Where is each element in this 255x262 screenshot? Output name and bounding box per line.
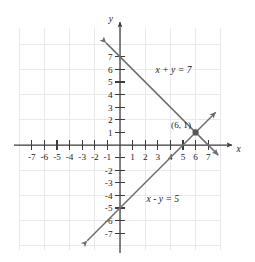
intersection-point-label: (6, 1) (171, 120, 191, 130)
intersection-dot (193, 129, 199, 135)
y-tick-label: 5 (108, 77, 113, 87)
equation-label-x-minus-y: x - y = 5 (146, 193, 180, 204)
graph-canvas: -7 -6 -5 -4 -3 -2 -1 1 2 3 4 5 6 7 7 6 5… (0, 0, 255, 262)
x-tick-label: 3 (156, 152, 161, 162)
annotation-labels: x + y = 7 x - y = 5 (6, 1) (146, 64, 193, 204)
x-tick-label: -1 (104, 152, 112, 162)
y-tick-label: 7 (108, 52, 113, 62)
y-axis-label: y (108, 14, 114, 24)
y-tick-label: -7 (105, 229, 113, 239)
y-tick-label: 4 (108, 90, 113, 100)
y-tick-label: -3 (105, 178, 113, 188)
y-tick-label: 1 (108, 128, 113, 138)
x-tick-label: -5 (53, 152, 61, 162)
line-x-plus-y-equals-7 (106, 43, 218, 155)
x-tick-label: 7 (206, 152, 211, 162)
x-tick-label: 5 (181, 152, 186, 162)
equation-label-x-plus-y: x + y = 7 (155, 64, 193, 75)
coordinate-graph-figure: -7 -6 -5 -4 -3 -2 -1 1 2 3 4 5 6 7 7 6 5… (0, 0, 255, 262)
axis-name-labels: x y (108, 14, 242, 155)
y-tick-label: 2 (108, 115, 113, 125)
x-tick-label: -2 (91, 152, 99, 162)
x-axis-label: x (236, 144, 242, 154)
x-tick-label: 2 (143, 152, 148, 162)
x-tick-label: 1 (130, 152, 135, 162)
y-tick-label: -2 (105, 166, 113, 176)
y-tick-label: -4 (105, 191, 113, 201)
y-tick-label: -5 (105, 203, 113, 213)
x-tick-label: -3 (78, 152, 86, 162)
x-tick-label: -4 (66, 152, 74, 162)
x-tick-label: -6 (41, 152, 49, 162)
x-tick-label: -7 (28, 152, 36, 162)
y-tick-label: 6 (108, 65, 113, 75)
y-tick-label: 3 (108, 103, 113, 113)
x-tick-label: 6 (193, 152, 198, 162)
intersection-marker (193, 129, 199, 135)
